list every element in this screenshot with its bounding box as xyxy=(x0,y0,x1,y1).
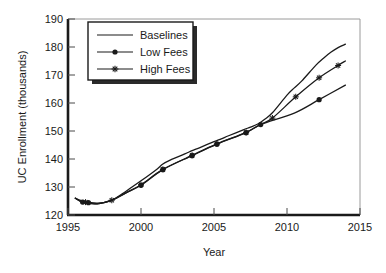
y-axis-title: UC Enrollment (thousands) xyxy=(16,51,28,184)
enrollment-line-chart: 120 130 140 150 160 170 180 190 1995 200… xyxy=(0,0,386,273)
y-axis-tick-labels: 120 130 140 150 160 170 180 190 xyxy=(45,13,63,221)
star-marker-icon xyxy=(269,115,275,121)
star-marker-icon xyxy=(83,199,89,205)
y-tick-label-160: 160 xyxy=(45,97,63,109)
x-axis-tick-labels: 1995 2000 2005 2010 2015 xyxy=(56,221,372,233)
x-tick-label-2005: 2005 xyxy=(202,221,226,233)
x-tick-label-1995: 1995 xyxy=(56,221,80,233)
star-marker-icon xyxy=(214,141,220,147)
y-tick-label-140: 140 xyxy=(45,153,63,165)
legend-label-low-fees: Low Fees xyxy=(140,46,188,58)
y-tick-label-180: 180 xyxy=(45,41,63,53)
y-tick-label-150: 150 xyxy=(45,125,63,137)
x-tick-label-2015: 2015 xyxy=(348,221,372,233)
star-marker-icon xyxy=(293,94,299,100)
x-tick-label-2010: 2010 xyxy=(275,221,299,233)
y-tick-label-130: 130 xyxy=(45,181,63,193)
star-marker-icon xyxy=(243,129,249,135)
series-line xyxy=(75,85,345,204)
legend-label-baselines: Baselines xyxy=(140,29,188,41)
star-marker-icon xyxy=(109,197,115,203)
filled-circle-marker-icon xyxy=(317,97,322,102)
star-marker-icon xyxy=(316,75,322,81)
x-axis-title: Year xyxy=(203,246,226,258)
star-marker-icon xyxy=(189,152,195,158)
star-marker-icon xyxy=(138,182,144,188)
star-marker-icon xyxy=(160,166,166,172)
star-marker-icon xyxy=(335,62,341,68)
y-tick-label-120: 120 xyxy=(45,209,63,221)
series-low-fees xyxy=(75,85,345,205)
y-tick-label-170: 170 xyxy=(45,69,63,81)
legend: Baselines Low Fees High Fees xyxy=(88,22,197,84)
y-tick-label-190: 190 xyxy=(45,13,63,25)
chart-container: 120 130 140 150 160 170 180 190 1995 200… xyxy=(0,0,386,273)
filled-circle-marker-icon xyxy=(112,49,117,54)
x-tick-label-2000: 2000 xyxy=(129,221,153,233)
legend-label-high-fees: High Fees xyxy=(140,63,191,75)
